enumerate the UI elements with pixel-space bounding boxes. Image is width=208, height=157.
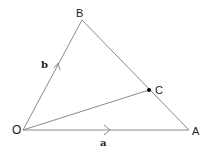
label-b: B (76, 7, 83, 19)
vector-diagram: O B A C b a (0, 0, 208, 157)
vector-label-b: b (41, 59, 48, 70)
vector-label-a: a (100, 137, 107, 148)
label-o: O (12, 123, 21, 137)
point-c-dot (147, 88, 151, 92)
label-a: A (192, 125, 200, 137)
label-c: C (155, 84, 163, 96)
segment-ab (82, 20, 189, 130)
segment-oc (23, 90, 149, 130)
segment-ob (23, 20, 82, 130)
